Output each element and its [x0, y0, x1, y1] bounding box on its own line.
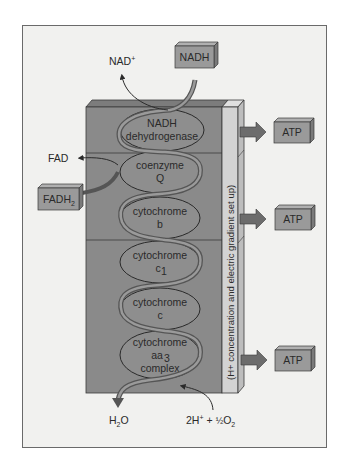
- svg-text:FADH2: FADH2: [43, 193, 75, 207]
- svg-text:Q: Q: [156, 172, 164, 184]
- svg-text:complex: complex: [140, 362, 180, 374]
- svg-text:NADH: NADH: [147, 117, 177, 129]
- svg-text:cytochrome: cytochrome: [133, 336, 187, 348]
- atp-output-2: ATP: [240, 205, 315, 230]
- h2o-arrowhead: [112, 398, 124, 408]
- nad-plus-label: NAD+: [109, 55, 135, 67]
- atp-output-3: ATP: [241, 346, 315, 371]
- svg-text:cytochrome: cytochrome: [133, 205, 187, 217]
- oxygen-label: 2H++½O2: [186, 414, 235, 428]
- svg-text:c: c: [157, 309, 162, 321]
- svg-text:aa: aa: [151, 349, 163, 361]
- svg-text:cytochrome: cytochrome: [133, 296, 187, 308]
- svg-text:NADH: NADH: [180, 51, 210, 63]
- atp-output-1: ATP: [240, 118, 314, 143]
- svg-text:c: c: [155, 262, 160, 274]
- svg-text:1: 1: [161, 265, 167, 277]
- svg-text:b: b: [157, 218, 163, 230]
- h2o-label: H2O: [109, 414, 129, 428]
- nadh-box: NADH: [175, 42, 218, 68]
- electron-transport-diagram: (H+ concentration and electric gradient …: [0, 0, 340, 470]
- gradient-label: (H+ concentration and electric gradient …: [225, 185, 236, 380]
- fadh2-box: FADH2: [38, 184, 83, 210]
- svg-text:coenzyme: coenzyme: [136, 159, 184, 171]
- atp-label: ATP: [283, 354, 303, 366]
- fad-label: FAD: [48, 152, 69, 164]
- svg-text:cytochrome: cytochrome: [133, 249, 187, 261]
- atp-label: ATP: [282, 126, 302, 138]
- atp-label: ATP: [283, 213, 303, 225]
- svg-text:dehydrogenase: dehydrogenase: [126, 130, 199, 142]
